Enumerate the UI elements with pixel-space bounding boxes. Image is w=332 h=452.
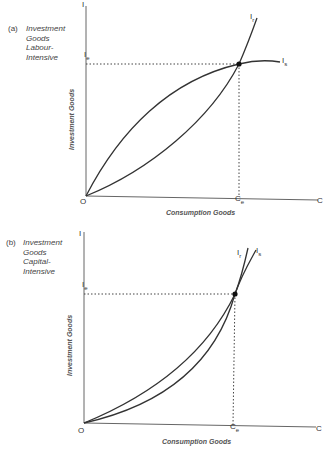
curve-is-label: Is <box>256 246 261 255</box>
equilibrium-point <box>232 291 237 296</box>
panel-a-labour-intensive: (a) Investment Goods Labour- Intensive I… <box>0 0 332 226</box>
x-axis-end-label: C <box>316 424 322 433</box>
caption-line: Intensive <box>23 267 62 277</box>
curve-ir-label: Ir <box>250 12 254 21</box>
ce-label-sub: e <box>236 427 239 433</box>
x-axis-label: Consumption Goods <box>162 438 231 445</box>
caption-line: Capital- <box>23 257 62 267</box>
equilibrium-point <box>236 61 241 66</box>
origin-label: O <box>78 426 84 435</box>
ie-label-sub: e <box>84 285 87 291</box>
ie-label: Ie <box>84 50 90 59</box>
ie-label: Ie <box>82 280 88 289</box>
ce-projection-line <box>233 294 235 425</box>
ce-label-main: C <box>235 194 241 203</box>
curve-is <box>86 61 280 196</box>
caption-line: Goods <box>26 34 65 44</box>
curve-ir <box>86 18 257 196</box>
y-axis-end-label: I <box>82 0 84 9</box>
curve-ir-label-sub: r <box>239 253 241 259</box>
curve-is-label: Is <box>282 56 287 65</box>
caption-line: Labour- <box>26 43 65 53</box>
y-axis-end-label: I <box>79 229 81 238</box>
ce-label-main: C <box>230 422 236 431</box>
ce-label: Ce <box>230 422 239 431</box>
caption-line: Investment <box>23 238 62 248</box>
panel-b-capital-intensive: (b) Investment Goods Capital- Intensive … <box>0 226 332 452</box>
curve-is-label-sub: s <box>284 61 287 67</box>
curve-ir-label: Ir <box>237 248 241 257</box>
x-axis <box>84 423 316 427</box>
panel-a-tag: (a) <box>8 24 18 33</box>
y-axis-label: Investment Goods <box>68 89 75 150</box>
x-axis-label: Consumption Goods <box>166 209 235 216</box>
x-axis <box>86 196 318 200</box>
curve-is-label-sub: s <box>258 251 261 257</box>
caption-line: Investment <box>26 24 65 34</box>
y-axis-label: Investment Goods <box>66 315 73 376</box>
panel-b-tag: (b) <box>6 238 16 247</box>
caption-line: Intensive <box>26 53 65 63</box>
curve-ir-label-sub: r <box>252 17 254 23</box>
caption-line: Goods <box>23 248 62 258</box>
origin-label: O <box>80 197 86 206</box>
curve-is <box>84 250 256 423</box>
curve-ir <box>84 248 248 423</box>
ie-label-sub: e <box>86 55 89 61</box>
ce-label: Ce <box>235 194 244 203</box>
x-axis-end-label: C <box>317 196 323 205</box>
ce-label-sub: e <box>241 199 244 205</box>
